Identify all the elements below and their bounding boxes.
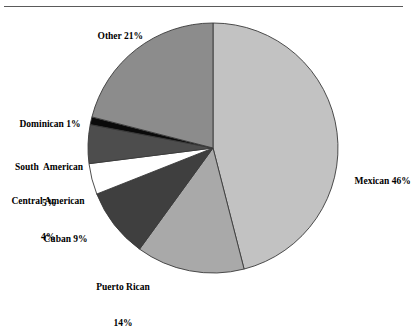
- slice-label-dominican: Dominican 1%: [10, 106, 96, 142]
- slice-label-dominican-text: Dominican 1%: [20, 119, 81, 129]
- slice-label-puerto-rican-line1: Puerto Rican: [78, 281, 168, 293]
- pie-slices-group: [88, 23, 338, 273]
- slice-label-other-text: Other 21%: [98, 31, 143, 41]
- slice-label-south-american-line1: South American: [4, 161, 94, 173]
- slice-label-mexican-text: Mexican 46%: [355, 176, 411, 186]
- slice-label-other: Other 21%: [88, 18, 174, 54]
- slice-label-mexican: Mexican 46%: [345, 163, 407, 199]
- slice-label-south-american-line2: 5%: [4, 197, 94, 209]
- slice-label-puerto-rican-line2: 14%: [78, 317, 168, 329]
- slice-label-puerto-rican: Puerto Rican 14%: [78, 257, 168, 330]
- slice-label-south-american: South American 5%: [4, 137, 94, 233]
